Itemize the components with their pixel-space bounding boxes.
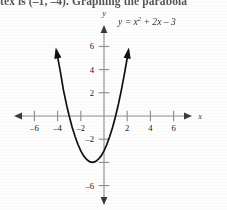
x-tick-label-6: 6 (171, 123, 176, 133)
x-axis-left-arrow (14, 113, 22, 120)
y-tick-label-4: 4 (90, 65, 95, 75)
x-tick-label-neg4: –4 (52, 123, 62, 133)
equation-prefix: y = x (118, 16, 138, 27)
y-tick-label-6: 6 (90, 41, 95, 51)
x-tick-label-4: 4 (148, 123, 153, 133)
y-axis-label: y (101, 9, 106, 18)
figure-page: tex is (–1, –4). Graphing the parabola (0, 0, 227, 210)
parabola-figure: –6 –4 –2 2 4 6 6 4 2 –2 –6 x y (0, 0, 227, 210)
y-axis-bottom-arrow (101, 197, 108, 205)
y-tick-label-neg2: –2 (84, 134, 94, 144)
y-tick-label-2: 2 (90, 88, 94, 98)
y-axis-top-arrow (101, 25, 108, 33)
x-tick-label-neg6: –6 (29, 123, 39, 133)
equation-annotation: y = x2 + 2x – 3 (118, 15, 176, 27)
equation-suffix: + 2x – 3 (141, 16, 176, 27)
x-axis-label: x (197, 112, 202, 121)
parabola-right-arrowhead (124, 47, 131, 58)
x-axis-right-arrow (184, 113, 192, 120)
parabola-left-arrowhead (54, 47, 61, 58)
x-tick-label-2: 2 (125, 123, 129, 133)
coordinate-plane-svg: –6 –4 –2 2 4 6 6 4 2 –2 –6 x y (0, 0, 227, 210)
x-tick-label-neg2: –2 (76, 123, 86, 133)
y-tick-label-neg6: –6 (84, 181, 94, 191)
